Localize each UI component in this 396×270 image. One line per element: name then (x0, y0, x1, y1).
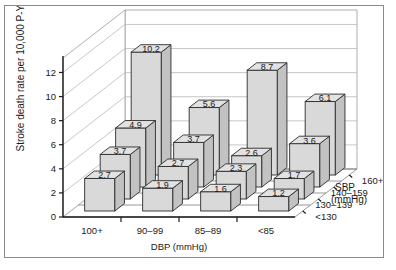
bar-side-face (277, 63, 287, 175)
y-tick-label: 12 (45, 67, 56, 78)
bar-value-label: 8.7 (261, 62, 274, 72)
y-axis-title: Stroke death rate per 10,000 P-Y (15, 6, 26, 152)
bar-side-face (320, 136, 330, 187)
bar-value-label: 2.7 (98, 170, 111, 180)
bar-side-face (161, 45, 171, 175)
bar-value-label: 2.7 (172, 158, 185, 168)
figure-frame: 024681012Stroke death rate per 10,000 P-… (4, 5, 384, 258)
y-tick-label: 10 (45, 91, 56, 102)
bar-side-face (146, 121, 156, 187)
bar-value-label: 4.9 (129, 120, 142, 130)
bar[interactable]: 2.7 (85, 170, 125, 211)
bar-value-label: 1.2 (272, 188, 285, 198)
bar-front-face (143, 188, 173, 211)
x-tick-label: 100+ (81, 225, 103, 236)
bar-value-label: 6.1 (319, 93, 332, 103)
x-tick-label: 90–99 (137, 225, 163, 236)
bar[interactable]: 1.6 (201, 184, 241, 211)
bar-side-face (204, 135, 214, 187)
x-tick-label: <85 (258, 225, 274, 236)
z-axis-title-line1: SBP (335, 182, 355, 193)
y-tick-label: 0 (51, 211, 56, 222)
bar-value-label: 1.9 (156, 180, 169, 190)
bar-value-label: 2.3 (230, 163, 243, 173)
bar-value-label: 1.7 (288, 170, 301, 180)
bar-side-face (335, 94, 345, 175)
bar-value-label: 3.7 (187, 134, 200, 144)
z-axis-title-line2: (mmHg) (331, 194, 367, 205)
bar-value-label: 5.6 (203, 99, 216, 109)
bar-value-label: 3.7 (114, 146, 127, 156)
bar-value-label: 3.6 (303, 136, 316, 146)
bar-front-face (201, 192, 231, 211)
depth-tick (349, 175, 352, 178)
depth-tick-label: <130 (315, 211, 336, 222)
bar-value-label: 2.6 (245, 148, 258, 158)
bar[interactable]: 1.2 (259, 188, 299, 211)
bar-front-face (259, 197, 289, 211)
x-tick-label: 85–89 (195, 225, 221, 236)
bar-value-label: 10.2 (142, 44, 160, 54)
bar[interactable]: 1.9 (143, 180, 183, 211)
y-tick-label: 6 (51, 139, 56, 150)
y-tick-label: 8 (51, 115, 56, 126)
x-axis-title: DBP (mmHg) (151, 241, 207, 252)
depth-tick (303, 211, 306, 214)
bar-side-face (130, 147, 140, 199)
depth-tick-label: 160+ (362, 175, 383, 186)
stroke-death-rate-3d-bar-chart: 024681012Stroke death rate per 10,000 P-… (5, 6, 383, 257)
y-tick-label: 2 (51, 187, 56, 198)
bar-value-label: 1.6 (214, 184, 227, 194)
y-tick-label: 4 (51, 163, 56, 174)
bar-front-face (85, 178, 115, 211)
